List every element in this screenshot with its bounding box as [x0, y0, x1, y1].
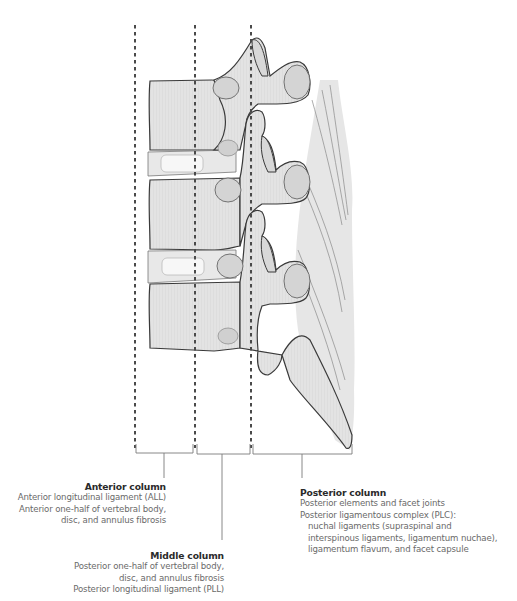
middle-column-title: Middle column: [40, 550, 224, 561]
middle-bracket: [197, 444, 250, 454]
middle-column-line-2: disc, and annulus fibrosis: [40, 573, 224, 584]
anterior-column-label: Anterior column Anterior longitudinal li…: [0, 481, 166, 527]
posterior-column-title: Posterior column: [300, 487, 517, 498]
posterior-column-line-4: interspinous ligaments, ligamentum nucha…: [300, 533, 517, 544]
middle-column-line-1: Posterior one-half of vertebral body,: [40, 561, 224, 572]
posterior-column-line-2: Posterior ligamentous complex (PLC):: [300, 510, 517, 521]
anterior-column-title: Anterior column: [0, 481, 166, 492]
posterior-column-line-5: ligamentum flavum, and facet capsule: [300, 544, 517, 555]
anterior-column-line-1: Anterior longitudinal ligament (ALL): [0, 492, 166, 503]
nucleus-pulposus-1: [161, 155, 203, 172]
anterior-column-line-2: Anterior one-half of vertebral body,: [0, 504, 166, 515]
posterior-column-line-3: nuchal ligaments (supraspinal and: [300, 521, 517, 532]
nucleus-pulposus-2: [162, 258, 204, 275]
middle-column-label: Middle column Posterior one-half of vert…: [40, 550, 224, 596]
posterior-bracket: [253, 444, 352, 454]
posterior-column-line-1: Posterior elements and facet joints: [300, 498, 517, 509]
middle-column-line-3: Posterior longitudinal ligament (PLL): [40, 584, 224, 595]
posterior-column-label: Posterior column Posterior elements and …: [300, 487, 517, 555]
anterior-bracket: [136, 444, 193, 453]
anterior-column-line-3: disc, and annulus fibrosis: [0, 515, 166, 526]
